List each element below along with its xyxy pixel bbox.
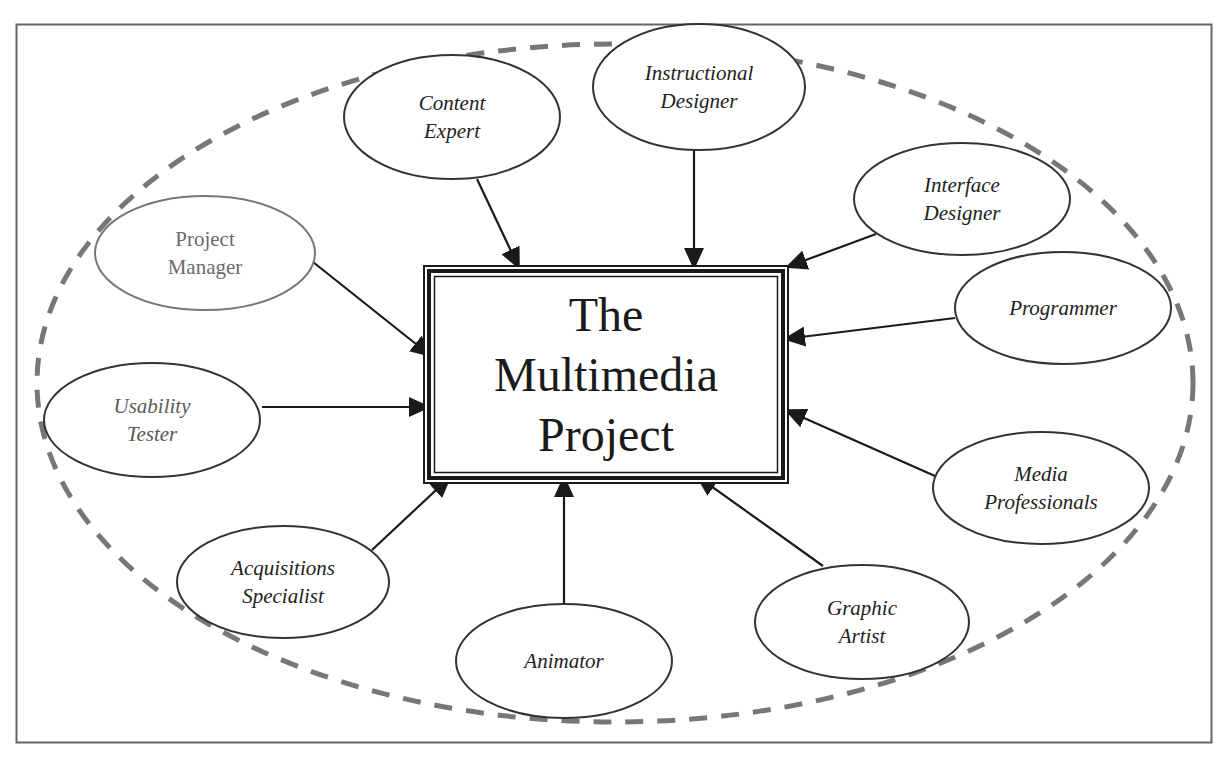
- node-instructional-designer[interactable]: InstructionalDesigner: [593, 24, 805, 150]
- node-content-expert[interactable]: ContentExpert: [344, 55, 560, 179]
- node-animator[interactable]: Animator: [456, 604, 672, 718]
- node-ellipse: [933, 432, 1149, 544]
- arrow-content-expert: [477, 179, 519, 268]
- arrow-acquisitions-specialist: [372, 477, 450, 550]
- node-label: Animator: [522, 649, 604, 673]
- multimedia-team-diagram: ContentExpertInstructionalDesignerInterf…: [0, 0, 1226, 765]
- arrow-project-manager: [313, 262, 431, 356]
- arrow-interface-designer: [787, 234, 876, 267]
- node-project-manager[interactable]: ProjectManager: [95, 196, 315, 310]
- node-ellipse: [593, 24, 805, 150]
- center-project-box[interactable]: TheMultimediaProject: [424, 266, 788, 483]
- node-acquisitions-specialist[interactable]: AcquisitionsSpecialist: [177, 526, 389, 638]
- node-ellipse: [854, 143, 1070, 255]
- node-ellipse: [95, 196, 315, 310]
- node-label: Programmer: [1008, 296, 1118, 320]
- node-graphic-artist[interactable]: GraphicArtist: [755, 565, 969, 679]
- arrow-media-professionals: [786, 410, 935, 476]
- node-ellipse: [177, 526, 389, 638]
- node-ellipse: [344, 55, 560, 179]
- node-ellipse: [44, 363, 260, 477]
- center-title-line: Multimedia: [494, 348, 718, 401]
- arrow-programmer: [785, 318, 955, 339]
- center-title-line: Project: [538, 408, 675, 461]
- diagram-canvas: ContentExpertInstructionalDesignerInterf…: [0, 0, 1226, 765]
- node-usability-tester[interactable]: UsabilityTester: [44, 363, 260, 477]
- arrow-graphic-artist: [697, 476, 823, 566]
- node-programmer[interactable]: Programmer: [955, 252, 1171, 364]
- center-title-line: The: [569, 288, 644, 341]
- node-media-professionals[interactable]: MediaProfessionals: [933, 432, 1149, 544]
- node-ellipse: [755, 565, 969, 679]
- node-interface-designer[interactable]: InterfaceDesigner: [854, 143, 1070, 255]
